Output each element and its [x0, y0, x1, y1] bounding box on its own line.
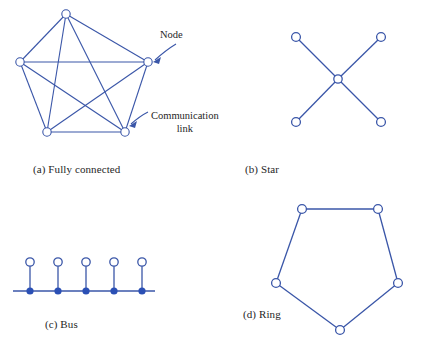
node-a4 — [43, 128, 51, 136]
annotation-node-label: Node — [160, 29, 183, 42]
annotation-link-line1: Communication — [151, 110, 219, 123]
fully-connected-links — [20, 14, 148, 132]
link-b0-b1 — [296, 37, 338, 79]
link-leader-arrow — [131, 112, 148, 124]
node-a1 — [62, 10, 70, 18]
link-a1-a4 — [47, 14, 66, 132]
node-leader-arrow — [155, 44, 176, 60]
node-a2 — [16, 58, 24, 66]
panel-bus — [13, 258, 155, 295]
network-topology-figure: Node Communication link (a) Fully connec… — [0, 0, 427, 347]
node-b0-hub — [334, 75, 342, 83]
node-b4 — [377, 118, 386, 127]
tap-c3 — [82, 287, 89, 294]
bus-nodes — [26, 258, 146, 266]
caption-panel-b: (b) Star — [245, 163, 279, 175]
node-c3 — [82, 258, 90, 266]
link-b0-b4 — [338, 79, 381, 122]
link-b0-b2 — [338, 37, 381, 79]
node-c5 — [138, 258, 146, 266]
caption-panel-c: (c) Bus — [45, 318, 78, 330]
caption-panel-d: (d) Ring — [243, 308, 281, 320]
tap-c5 — [138, 287, 145, 294]
link-a3-a4 — [47, 62, 148, 132]
link-b0-b3 — [296, 79, 338, 122]
panel-ring — [272, 205, 403, 335]
node-d4 — [336, 326, 345, 335]
annotation-communication-link-label: Communication link — [151, 110, 219, 135]
tap-c2 — [54, 287, 61, 294]
ring-nodes — [272, 205, 403, 335]
annotation-link-line2: link — [151, 123, 219, 136]
node-d5 — [272, 279, 281, 288]
tap-c4 — [110, 287, 117, 294]
panel-star — [292, 33, 386, 127]
node-a5 — [121, 128, 129, 136]
link-d2-d3 — [378, 209, 398, 283]
caption-panel-a: (a) Fully connected — [33, 163, 120, 175]
link-a2-a5 — [20, 62, 125, 132]
node-b2 — [377, 33, 386, 42]
node-c4 — [110, 258, 118, 266]
tap-c1 — [26, 287, 33, 294]
node-a3 — [144, 58, 152, 66]
node-d3 — [394, 279, 403, 288]
ring-links — [276, 209, 398, 330]
link-d3-d4 — [340, 283, 398, 330]
node-c1 — [26, 258, 34, 266]
link-d4-d5 — [276, 283, 340, 330]
bus-stems — [30, 266, 142, 291]
node-b3 — [292, 118, 301, 127]
link-a2-a4 — [20, 62, 47, 132]
node-d1 — [298, 205, 307, 214]
node-b1 — [292, 33, 301, 42]
link-d5-d1 — [276, 209, 302, 283]
node-d2 — [374, 205, 383, 214]
node-c2 — [54, 258, 62, 266]
